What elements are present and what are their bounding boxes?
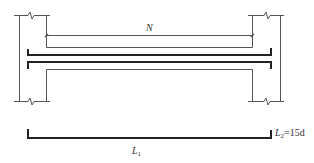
clear-span-tick-right [251, 34, 254, 37]
top-rebar [28, 48, 271, 55]
length-hook-label: L2=15d [274, 127, 305, 140]
length-main-label: L1 [131, 145, 142, 158]
clear-span-label: N [145, 22, 154, 33]
beam-outline [47, 48, 253, 70]
rebar-length-line [28, 129, 271, 138]
clear-span-dimension [45, 34, 254, 37]
reinforcing-bars [28, 48, 271, 69]
beam-reinforcement-diagram: N L1 L2=15d [0, 0, 314, 163]
right-column-top-break [248, 12, 284, 19]
bottom-rebar [28, 62, 271, 69]
rebar-length-dimension [28, 129, 271, 138]
right-column [248, 12, 284, 105]
right-column-bottom-break [248, 98, 284, 105]
clear-span-tick-left [45, 34, 48, 37]
left-column [14, 12, 50, 105]
